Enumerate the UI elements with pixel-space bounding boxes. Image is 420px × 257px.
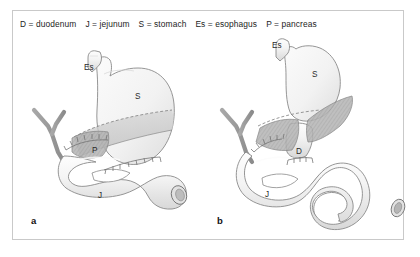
anatomy-illustration [0,0,420,257]
panel-b-letter: b [217,215,223,226]
panel-a-pancreas-head [72,131,109,158]
panel-a-letter: a [31,215,36,226]
panel-a-vessel [34,110,64,162]
panel-a-jejunum [58,156,189,209]
panel-a-stomach [96,57,174,165]
figure-root: D = duodenum J = jejunum S = stomach Es … [0,0,420,257]
panel-b-jejunum [236,152,407,230]
panel-a-illustration [34,51,189,209]
panel-b-illustration [222,39,407,230]
